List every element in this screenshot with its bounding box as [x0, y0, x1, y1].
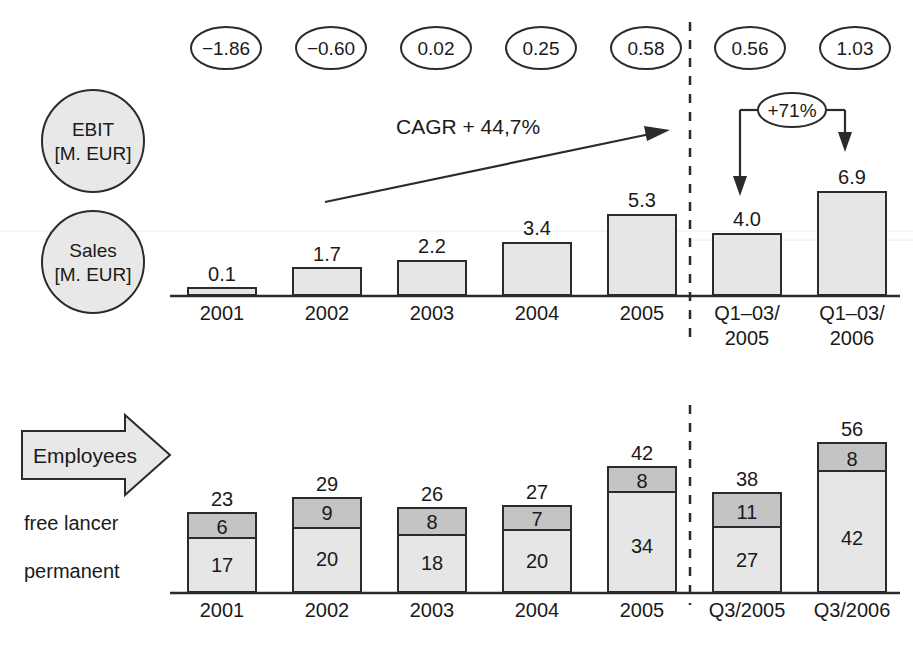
employees-arrow-label: Employees [33, 444, 137, 467]
sales-value-2004: 3.4 [523, 217, 551, 239]
ebit-bubble-q1-03-2006: 1.03 [820, 27, 890, 69]
employees-bar-2004: 7 20 27 [503, 481, 571, 592]
employees-bar-2002: 9 20 29 [293, 473, 361, 592]
employees-total-2001: 23 [211, 488, 233, 510]
employees-bar-2005: 8 34 42 [608, 442, 676, 592]
employees-arrow-badge: Employees [22, 415, 170, 495]
employees-freelancer-value-2002: 9 [321, 502, 332, 524]
sales-bar-q1-03-2006 [818, 192, 886, 295]
employees-total-q3-2006: 56 [841, 418, 863, 440]
growth-callout-label: +71% [767, 100, 816, 121]
cagr-label: CAGR + 44,7% [396, 115, 540, 138]
employees-cat-2003: 2003 [410, 599, 455, 621]
sales-value-q1-03-2005: 4.0 [733, 208, 761, 230]
employees-permanent-value-2003: 18 [421, 552, 443, 574]
sales-label-circle [42, 211, 144, 313]
ebit-bubble-2005: 0.58 [611, 27, 681, 69]
sales-value-2005: 5.3 [628, 189, 656, 211]
business-performance-chart: −1.86 −0.60 0.02 0.25 0.58 0.56 [0, 0, 913, 646]
sales-bar-q1-03-2005 [713, 234, 781, 295]
sales-cat-2001: 2001 [200, 302, 245, 324]
cagr-arrow-head-icon [644, 126, 670, 141]
cagr-trend-arrow: CAGR + 44,7% [325, 115, 670, 202]
employees-cat-q3-2006: Q3/2006 [814, 599, 891, 621]
ebit-value-2004: 0.25 [523, 38, 560, 59]
employees-total-2005: 42 [631, 442, 653, 464]
employees-permanent-value-2005: 34 [631, 535, 653, 557]
sales-value-q1-03-2006: 6.9 [838, 166, 866, 188]
employees-bar-q3-2006: 8 42 56 [818, 418, 886, 592]
ebit-value-2001: −1.86 [202, 38, 250, 59]
sales-category-labels: 2001 2002 2003 2004 2005 Q1–03/ 2005 Q1–… [200, 302, 885, 349]
employees-bar-chart: 6 17 23 9 20 29 8 18 26 [170, 418, 900, 593]
growth-callout: +71% [733, 93, 852, 196]
employees-freelancer-value-2005: 8 [636, 470, 647, 492]
ebit-bubble-2001: −1.86 [191, 27, 261, 69]
sales-cat-q1-03-2005: Q1–03/ [714, 302, 780, 324]
ebit-bubble-2003: 0.02 [401, 27, 471, 69]
legend-permanent: permanent [24, 560, 120, 582]
sales-value-2001: 0.1 [208, 263, 236, 285]
chart-page: −1.86 −0.60 0.02 0.25 0.58 0.56 [0, 0, 913, 646]
employees-permanent-value-2002: 20 [316, 548, 338, 570]
sales-bar-2001 [188, 288, 256, 295]
ebit-value-2003: 0.02 [418, 38, 455, 59]
sales-cat-2002: 2002 [305, 302, 350, 324]
sales-bar-2005 [608, 215, 676, 295]
employees-legend: free lancer permanent [24, 512, 120, 582]
sales-cat-2003: 2003 [410, 302, 455, 324]
cagr-arrow-line [325, 133, 655, 202]
sales-label-line1: Sales [69, 240, 117, 261]
employees-bar-2003: 8 18 26 [398, 483, 466, 592]
sales-row-label: Sales [M. EUR] [42, 211, 144, 313]
employees-bar-q3-2005: 11 27 38 [713, 468, 781, 592]
ebit-value-q1-03-2006: 1.03 [837, 38, 874, 59]
ebit-row-label: EBIT [M. EUR] [42, 90, 144, 192]
employees-bar-2001: 6 17 23 [188, 488, 256, 592]
sales-bar-2004 [503, 243, 571, 295]
legend-free-lancer: free lancer [24, 512, 119, 534]
employees-permanent-value-q3-2005: 27 [736, 549, 758, 571]
employees-category-labels: 2001 2002 2003 2004 2005 Q3/2005 Q3/2006 [200, 599, 891, 621]
employees-cat-2005: 2005 [620, 599, 665, 621]
employees-freelancer-value-2003: 8 [426, 511, 437, 533]
employees-permanent-value-q3-2006: 42 [841, 527, 863, 549]
employees-freelancer-value-q3-2005: 11 [737, 501, 758, 523]
sales-label-line2: [M. EUR] [54, 264, 131, 285]
ebit-value-q1-03-2005: 0.56 [732, 38, 769, 59]
sales-value-2003: 2.2 [418, 235, 446, 257]
employees-freelancer-value-2001: 6 [216, 516, 227, 538]
ebit-label-circle [42, 90, 144, 192]
ebit-bubble-q1-03-2005: 0.56 [715, 27, 785, 69]
ebit-bubble-row: −1.86 −0.60 0.02 0.25 0.58 0.56 [191, 27, 890, 69]
employees-cat-2004: 2004 [515, 599, 560, 621]
ebit-bubble-2004: 0.25 [506, 27, 576, 69]
employees-cat-2001: 2001 [200, 599, 245, 621]
employees-cat-2002: 2002 [305, 599, 350, 621]
ebit-bubble-2002: −0.60 [296, 27, 366, 69]
growth-arrow-down-left-icon [733, 176, 747, 196]
ebit-value-2005: 0.58 [628, 38, 665, 59]
employees-permanent-value-2001: 17 [211, 554, 233, 576]
sales-cat-q1-03-2006-year: 2006 [830, 327, 875, 349]
sales-cat-2005: 2005 [620, 302, 665, 324]
sales-bar-2002 [293, 268, 361, 295]
employees-total-2004: 27 [526, 481, 548, 503]
employees-total-2003: 26 [421, 483, 443, 505]
ebit-value-2002: −0.60 [307, 38, 355, 59]
sales-value-2002: 1.7 [313, 243, 341, 265]
employees-total-2002: 29 [316, 473, 338, 495]
ebit-label-line2: [M. EUR] [54, 143, 131, 164]
sales-cat-q1-03-2006: Q1–03/ [819, 302, 885, 324]
sales-cat-q1-03-2005-year: 2005 [725, 327, 770, 349]
growth-arrow-down-right-icon [838, 132, 852, 152]
sales-bar-2003 [398, 261, 466, 295]
sales-cat-2004: 2004 [515, 302, 560, 324]
employees-permanent-value-2004: 20 [526, 550, 548, 572]
ebit-label-line1: EBIT [72, 119, 115, 140]
employees-freelancer-value-2004: 7 [531, 508, 542, 530]
employees-cat-q3-2005: Q3/2005 [709, 599, 786, 621]
employees-total-q3-2005: 38 [736, 468, 758, 490]
employees-freelancer-value-q3-2006: 8 [846, 448, 857, 470]
